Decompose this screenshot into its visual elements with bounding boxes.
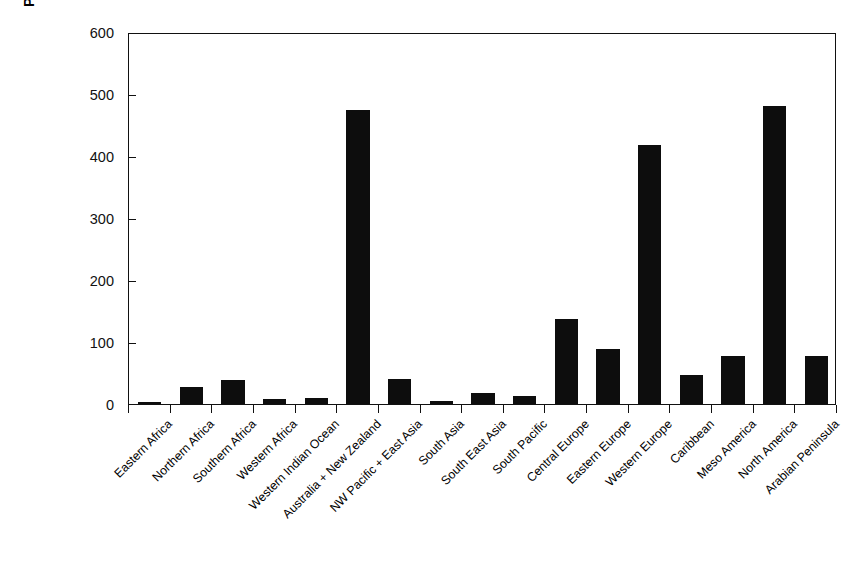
bar: [596, 349, 619, 404]
bar: [513, 396, 536, 404]
bar: [763, 106, 786, 404]
x-axis-tick: [544, 405, 545, 413]
x-axis-tick: [336, 405, 337, 413]
bar: [388, 379, 411, 404]
x-axis-tick-label: Eastern Africa: [24, 417, 175, 568]
y-axis-tick: [128, 281, 136, 282]
bar: [138, 402, 161, 404]
bar: [721, 356, 744, 404]
bar: [430, 401, 453, 404]
x-axis-tick: [211, 405, 212, 413]
x-axis-tick: [128, 405, 129, 413]
bar: [180, 387, 203, 404]
y-axis-tick: [128, 343, 136, 344]
x-axis-tick: [378, 405, 379, 413]
bar: [263, 399, 286, 404]
y-axis-title: Passenger cars per 1000 people: [14, 0, 44, 68]
y-axis-tick-label: 300: [62, 211, 114, 227]
bar: [638, 145, 661, 404]
x-axis-tick: [628, 405, 629, 413]
y-axis-tick: [128, 95, 136, 96]
y-axis-tick: [128, 219, 136, 220]
y-axis-tick-label: 500: [62, 87, 114, 103]
y-axis-tick: [128, 157, 136, 158]
bar: [680, 375, 703, 404]
x-axis-tick: [711, 405, 712, 413]
x-axis-tick: [753, 405, 754, 413]
y-axis-tick-label: 400: [62, 149, 114, 165]
bar: [305, 398, 328, 404]
y-axis-tick-label: 600: [62, 25, 114, 41]
x-axis-tick: [586, 405, 587, 413]
bar-chart-figure: Passenger cars per 1000 people Eastern A…: [0, 0, 860, 587]
bar: [221, 380, 244, 404]
bar: [805, 356, 828, 404]
x-axis-tick: [253, 405, 254, 413]
bar: [555, 319, 578, 404]
x-axis-tick: [170, 405, 171, 413]
x-axis-tick: [794, 405, 795, 413]
x-axis-tick: [461, 405, 462, 413]
x-axis-tick: [420, 405, 421, 413]
x-axis-tick: [295, 405, 296, 413]
x-axis-tick: [836, 405, 837, 413]
y-axis-tick-label: 200: [62, 273, 114, 289]
bar: [471, 393, 494, 404]
bar: [346, 110, 369, 404]
plot-area: [128, 33, 836, 405]
y-axis-tick-label: 100: [62, 335, 114, 351]
x-axis-tick: [669, 405, 670, 413]
y-axis-tick-label: 0: [62, 397, 114, 413]
x-axis-tick: [503, 405, 504, 413]
